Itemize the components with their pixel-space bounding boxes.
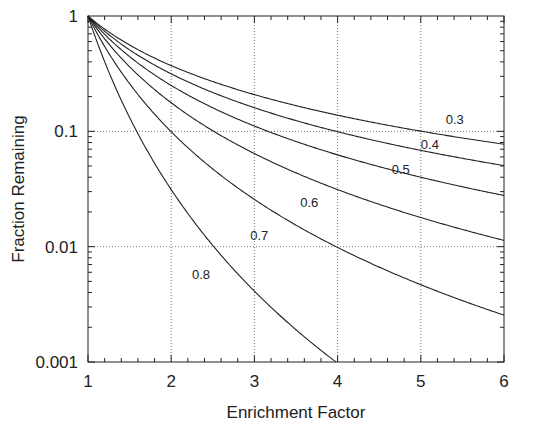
x-tick-label: 3	[250, 372, 259, 391]
curve-0.8	[88, 16, 336, 362]
x-tick-label: 6	[499, 372, 508, 391]
x-tick-label: 4	[333, 372, 342, 391]
y-tick-label: 0.001	[35, 353, 78, 372]
curve-label: 0.8	[192, 267, 210, 282]
curve-label: 0.5	[392, 162, 410, 177]
curve-label: 0.6	[300, 195, 318, 210]
plot-frame	[88, 16, 504, 362]
curve-0.4	[88, 16, 504, 166]
x-tick-label: 1	[83, 372, 92, 391]
x-tick-labels: 123456	[83, 372, 508, 391]
curve-0.7	[88, 16, 504, 315]
y-axis-title: Fraction Remaining	[9, 115, 28, 262]
curve-label: 0.7	[250, 228, 268, 243]
curve-label: 0.3	[446, 112, 464, 127]
curve-0.6	[88, 16, 504, 240]
x-axis-title: Enrichment Factor	[227, 403, 366, 422]
y-tick-label: 0.01	[45, 238, 78, 257]
axis-ticks	[88, 16, 504, 362]
curves	[88, 16, 504, 362]
y-tick-label: 0.1	[54, 122, 78, 141]
curve-label: 0.4	[421, 137, 439, 152]
curve-labels: 0.30.40.50.60.70.8	[192, 112, 464, 282]
grid-lines	[88, 16, 504, 362]
x-tick-label: 2	[166, 372, 175, 391]
curve-0.3	[88, 16, 504, 144]
chart: 0.30.40.50.60.70.8 123456 10.10.010.001 …	[0, 0, 546, 434]
x-tick-label: 5	[416, 372, 425, 391]
y-tick-label: 1	[69, 7, 78, 26]
y-tick-labels: 10.10.010.001	[35, 7, 78, 372]
